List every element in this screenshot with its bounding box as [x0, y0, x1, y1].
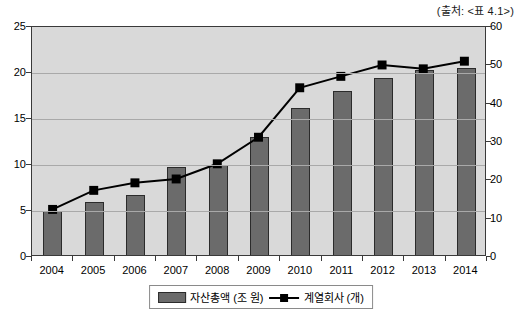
y-axis-left-tick-label: 0 — [2, 250, 26, 262]
y-axis-right-tick-label: 20 — [490, 173, 518, 185]
y-axis-left-tick — [26, 118, 31, 119]
x-axis-tick-label: 2007 — [164, 264, 188, 276]
y-axis-left-tick-label: 25 — [2, 20, 26, 32]
y-axis-left-tick — [26, 72, 31, 73]
x-axis-tick-label: 2005 — [81, 264, 105, 276]
y-axis-right-tick-label: 60 — [490, 20, 518, 32]
y-axis-right-tick — [486, 26, 491, 27]
line-marker — [419, 64, 428, 73]
y-axis-right-tick-label: 10 — [490, 212, 518, 224]
y-axis-right-tick — [486, 179, 491, 180]
y-axis-left-tick-label: 10 — [2, 158, 26, 170]
gridline — [32, 165, 485, 166]
y-axis-left-tick-label: 15 — [2, 112, 26, 124]
line-marker — [254, 133, 263, 142]
x-axis-tick — [31, 256, 32, 261]
y-axis-left-tick — [26, 256, 31, 257]
x-axis-tick-label: 2008 — [205, 264, 229, 276]
x-axis-ticks — [31, 256, 486, 264]
y-axis-right-tick — [486, 64, 491, 65]
legend-label-bar: 자산총액 (조 원) — [190, 289, 263, 305]
x-axis-tick — [238, 256, 239, 261]
x-axis-tick — [114, 256, 115, 261]
y-axis-right-tick — [486, 141, 491, 142]
y-axis-left-tick — [26, 26, 31, 27]
legend-item-line: 계열회사 (개) — [270, 289, 364, 305]
x-axis-tick-label: 2006 — [122, 264, 146, 276]
gridline — [32, 73, 485, 74]
line-marker — [89, 186, 98, 195]
line-marker — [213, 159, 222, 168]
x-axis-tick-label: 2011 — [329, 264, 353, 276]
x-axis-tick-label: 2004 — [39, 264, 63, 276]
x-axis-tick-label: 2010 — [288, 264, 312, 276]
x-axis-tick — [445, 256, 446, 261]
line-marker — [295, 83, 304, 92]
x-axis-tick-label: 2012 — [370, 264, 394, 276]
y-axis-right-tick-label: 0 — [490, 250, 518, 262]
legend-item-bar: 자산총액 (조 원) — [158, 289, 263, 305]
line-marker — [172, 175, 181, 184]
bar-swatch-icon — [158, 292, 186, 303]
line-marker — [460, 57, 469, 66]
y-axis-left-tick — [26, 164, 31, 165]
line-marker — [130, 178, 139, 187]
gridline — [32, 119, 485, 120]
x-axis-tick — [362, 256, 363, 261]
x-axis-tick — [155, 256, 156, 261]
y-axis-right-tick-label: 50 — [490, 58, 518, 70]
plot-area — [31, 26, 486, 256]
source-note: (출처: <표 4.1>) — [437, 2, 514, 18]
x-axis-tick-label: 2014 — [453, 264, 477, 276]
chart-container: (출처: <표 4.1>) 20042005200620072008200920… — [0, 0, 522, 313]
line-marker — [48, 205, 57, 214]
x-axis-tick — [403, 256, 404, 261]
y-axis-right-tick-label: 40 — [490, 97, 518, 109]
x-axis-tick-label: 2009 — [246, 264, 270, 276]
y-axis-right-tick — [486, 218, 491, 219]
line-marker-icon — [270, 293, 300, 302]
x-axis-tick — [72, 256, 73, 261]
y-axis-right-tick — [486, 103, 491, 104]
y-axis-left-tick-label: 5 — [2, 204, 26, 216]
y-axis-left-tick — [26, 210, 31, 211]
chart-legend: 자산총액 (조 원) 계열회사 (개) — [149, 285, 373, 309]
line-marker — [378, 61, 387, 70]
x-axis-tick-label: 2013 — [412, 264, 436, 276]
x-axis-tick — [321, 256, 322, 261]
y-axis-right-tick — [486, 256, 491, 257]
gridline — [32, 211, 485, 212]
x-axis-labels: 2004200520062007200820092010201120122013… — [31, 264, 486, 280]
y-axis-left-tick-label: 20 — [2, 66, 26, 78]
legend-label-line: 계열회사 (개) — [304, 289, 364, 305]
line-series-layer — [32, 27, 485, 255]
x-axis-tick — [279, 256, 280, 261]
y-axis-right-tick-label: 30 — [490, 135, 518, 147]
x-axis-tick — [196, 256, 197, 261]
